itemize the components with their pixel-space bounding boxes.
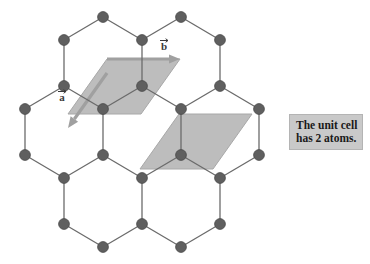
atom <box>137 81 148 92</box>
atom <box>215 173 226 184</box>
atom <box>176 150 187 161</box>
caption-line-2: has 2 atoms. <box>296 132 357 145</box>
atom <box>176 242 187 253</box>
bond <box>220 155 259 178</box>
bond <box>64 224 103 247</box>
atom <box>98 104 109 115</box>
unit-cell-caption-box: The unit cell has 2 atoms. <box>289 114 363 150</box>
bond <box>142 224 181 247</box>
atom <box>215 219 226 230</box>
bond <box>25 155 64 178</box>
atom <box>59 173 70 184</box>
atom <box>176 12 187 23</box>
atom <box>137 35 148 46</box>
atom <box>215 35 226 46</box>
atom <box>137 173 148 184</box>
bond <box>181 17 220 40</box>
bond <box>142 17 181 40</box>
atom <box>176 104 187 115</box>
bond <box>64 17 103 40</box>
bond <box>103 155 142 178</box>
atom <box>254 150 265 161</box>
unit-cell-right <box>140 114 252 169</box>
bond <box>181 86 220 109</box>
bond <box>103 224 142 247</box>
atom <box>98 150 109 161</box>
bond <box>25 86 64 109</box>
bond <box>181 224 220 247</box>
atom <box>59 219 70 230</box>
bond <box>64 155 103 178</box>
atom <box>254 104 265 115</box>
atom <box>20 150 31 161</box>
lattice-vector-a-label: a <box>58 90 66 103</box>
unit-cells-layer <box>68 59 252 169</box>
atom <box>98 12 109 23</box>
atom <box>137 219 148 230</box>
bond <box>220 86 259 109</box>
caption-line-1: The unit cell <box>296 119 357 132</box>
lattice-vector-b-label: b <box>160 39 168 52</box>
atom <box>215 81 226 92</box>
lattice-figure: ab The unit cell has 2 atoms. <box>0 0 370 264</box>
atom <box>59 35 70 46</box>
atom <box>20 104 31 115</box>
bond <box>103 17 142 40</box>
atom <box>98 242 109 253</box>
